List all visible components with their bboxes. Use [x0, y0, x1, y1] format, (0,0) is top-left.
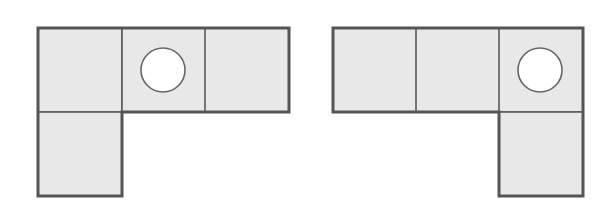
diagram-canvas	[0, 0, 608, 213]
tile	[38, 112, 122, 196]
tile	[38, 28, 122, 112]
circle-hole-icon	[141, 48, 185, 92]
tile	[205, 28, 289, 112]
tile	[333, 28, 417, 112]
tile	[416, 28, 500, 112]
circle-hole-icon	[518, 48, 562, 92]
shapes-layer	[38, 28, 583, 196]
tile	[499, 112, 583, 196]
right-l-shape	[333, 28, 583, 196]
left-l-shape	[38, 28, 289, 196]
